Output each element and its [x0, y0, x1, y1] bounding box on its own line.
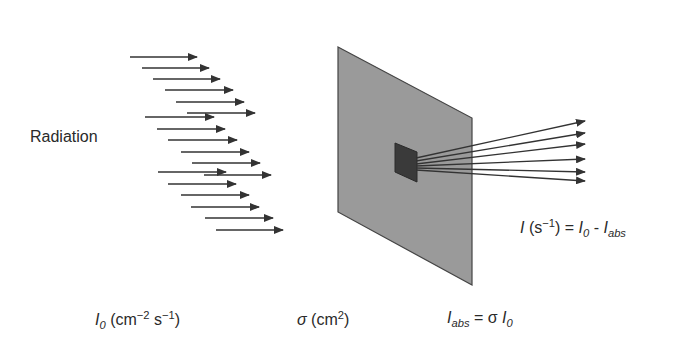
- cross-section-label: σ (cm2): [297, 312, 349, 328]
- absorption-diagram: [0, 0, 690, 354]
- flux-unit-close: ): [175, 311, 180, 328]
- flux-label: I0 (cm−2 s−1): [95, 312, 180, 328]
- tr-unit-exp: −1: [542, 217, 555, 229]
- absorbed-eq: = σ: [470, 309, 503, 326]
- tr-minus: -: [589, 219, 603, 236]
- flux-unit-exp2: −1: [162, 309, 175, 321]
- absorbed-label: Iabs = σ I0: [447, 310, 513, 326]
- iabs-subscript: abs: [451, 317, 469, 329]
- flux-unit-open: (cm: [106, 311, 137, 328]
- incoming-radiation-arrows: [130, 57, 283, 230]
- i0-subscript: 0: [507, 317, 513, 329]
- tr-iabs-subscript: abs: [608, 227, 626, 239]
- flux-unit-exp1: −2: [137, 309, 150, 321]
- radiation-label: Radiation: [30, 129, 98, 145]
- tr-unit-close: ) =: [555, 219, 579, 236]
- transmitted-label: I (s−1) = I0 - Iabs: [520, 220, 626, 236]
- cs-unit-close: ): [344, 311, 349, 328]
- sigma-symbol: σ: [297, 311, 307, 328]
- flux-unit-mid: s: [150, 311, 162, 328]
- cs-unit-open: (cm: [307, 311, 338, 328]
- tr-unit-open: (s: [524, 219, 542, 236]
